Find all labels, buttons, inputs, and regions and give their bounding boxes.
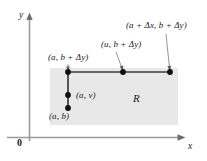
y-axis-label: y: [19, 11, 23, 21]
point-label-u-b-plus-dy: (u, b + Δy): [101, 40, 141, 49]
math-figure: y x 0 R (a, b + Δy) (u, b + Δy) (a + Δx,…: [0, 0, 207, 161]
point-label-a-plus-dx-b-plus-dy: (a + Δx, b + Δy): [126, 21, 187, 30]
point-label-a-v: (a, v): [76, 91, 96, 100]
leader-line-a-dx-b-dy: [166, 34, 170, 69]
origin-label: 0: [17, 138, 22, 148]
dot-corner-a-b-plus-dy: [65, 69, 71, 75]
x-axis-label: x: [188, 142, 192, 152]
x-axis-arrowhead: [178, 134, 186, 141]
dot-interior-a-v: [65, 92, 71, 98]
y-axis-arrowhead: [26, 13, 32, 21]
point-label-a-b-plus-dy: (a, b + Δy): [48, 53, 88, 62]
dot-interior-u-b-plus-dy: [120, 69, 126, 75]
region-label-R: R: [133, 93, 140, 104]
point-label-a-b: (a, b): [49, 112, 69, 121]
dot-corner-a-plus-dx-b-plus-dy: [167, 69, 173, 75]
